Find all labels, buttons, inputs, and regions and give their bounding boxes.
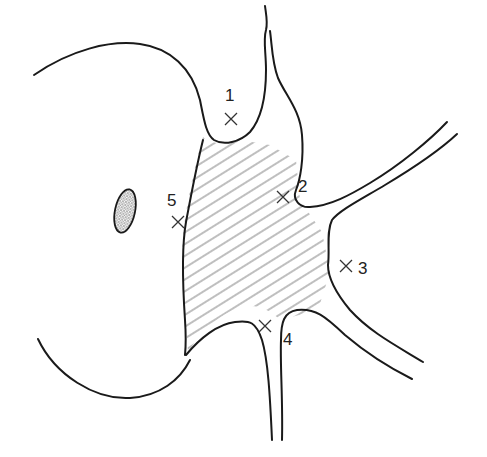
marker-3: 3 bbox=[340, 259, 367, 278]
lower-dendrite-left-edge bbox=[186, 321, 272, 440]
svg-text:2: 2 bbox=[298, 177, 307, 196]
cell-body-bottom-arc bbox=[38, 339, 190, 398]
marker-1: 1 bbox=[225, 86, 237, 125]
cell-body-upper-outline bbox=[34, 6, 267, 143]
svg-text:1: 1 bbox=[225, 86, 234, 105]
svg-text:4: 4 bbox=[283, 330, 292, 349]
cell-diagram: 1 2 3 4 5 bbox=[0, 0, 487, 457]
svg-text:3: 3 bbox=[358, 259, 367, 278]
lower-right-dendrite-upper-edge bbox=[281, 310, 412, 440]
marker-5: 5 bbox=[167, 191, 184, 228]
svg-text:5: 5 bbox=[167, 191, 176, 210]
nucleus-stippled-oval bbox=[111, 187, 140, 234]
